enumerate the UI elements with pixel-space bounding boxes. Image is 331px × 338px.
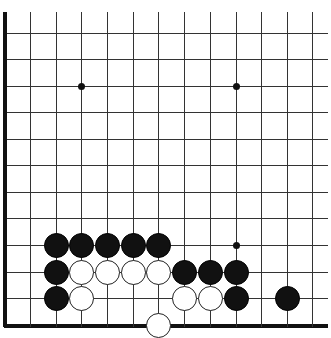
white-stone bbox=[69, 260, 94, 285]
star-point bbox=[233, 83, 240, 90]
black-stone bbox=[146, 233, 171, 258]
black-stone bbox=[224, 260, 249, 285]
grid-line-horizontal bbox=[4, 139, 328, 140]
grid-line-horizontal bbox=[4, 112, 328, 113]
white-stone bbox=[172, 286, 197, 311]
black-stone bbox=[44, 260, 69, 285]
black-stone bbox=[44, 233, 69, 258]
black-stone bbox=[95, 233, 120, 258]
star-point bbox=[78, 83, 85, 90]
black-stone bbox=[275, 286, 300, 311]
grid-line-vertical bbox=[261, 12, 262, 327]
grid-line-vertical bbox=[312, 12, 313, 327]
black-stone bbox=[172, 260, 197, 285]
white-stone bbox=[95, 260, 120, 285]
white-stone bbox=[198, 286, 223, 311]
grid-line-vertical bbox=[287, 12, 288, 327]
black-stone bbox=[121, 233, 146, 258]
black-stone bbox=[44, 286, 69, 311]
grid-line-horizontal bbox=[4, 86, 328, 87]
black-stone bbox=[224, 286, 249, 311]
grid-line-horizontal bbox=[4, 59, 328, 60]
white-stone bbox=[146, 260, 171, 285]
grid-line-horizontal bbox=[4, 33, 328, 34]
board-edge-left bbox=[3, 12, 7, 327]
white-stone bbox=[146, 313, 171, 338]
grid-line-horizontal bbox=[4, 192, 328, 193]
black-stone bbox=[69, 233, 94, 258]
star-point bbox=[233, 242, 240, 249]
white-stone bbox=[121, 260, 146, 285]
grid-line-horizontal bbox=[4, 218, 328, 219]
grid-line-horizontal bbox=[4, 165, 328, 166]
white-stone bbox=[69, 286, 94, 311]
grid-line-vertical bbox=[30, 12, 31, 327]
black-stone bbox=[198, 260, 223, 285]
